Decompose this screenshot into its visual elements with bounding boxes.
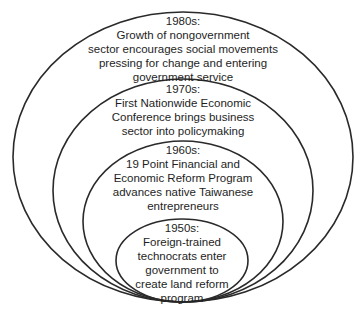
decade-1970s: 1970s: [0, 82, 360, 96]
text-line: 19 Point Financial and [0, 157, 360, 171]
text-line: Conference brings business [0, 110, 360, 124]
text-line: Foreign-trained [0, 235, 360, 249]
text-line: government to [0, 263, 360, 277]
label-1980s: 1980s: Growth of nongovernment sector en… [0, 14, 360, 84]
text-line: sector encourages social movements [0, 42, 360, 56]
label-1970s: 1970s: First Nationwide Economic Confere… [0, 82, 360, 138]
decade-1980s: 1980s: [0, 14, 360, 28]
text-line: technocrats enter [0, 249, 360, 263]
text-line: sector into policymaking [0, 124, 360, 138]
text-line: Growth of nongovernment [0, 28, 360, 42]
text-line: First Nationwide Economic [0, 96, 360, 110]
text-line: entrepreneurs [0, 199, 360, 213]
text-line: advances native Taiwanese [0, 185, 360, 199]
text-line: program [0, 291, 360, 305]
text-line: Economic Reform Program [0, 171, 360, 185]
decade-1950s: 1950s: [0, 221, 360, 235]
text-line: pressing for change and entering [0, 56, 360, 70]
text-line: create land reform [0, 277, 360, 291]
label-1950s: 1950s: Foreign-trained technocrats enter… [0, 221, 360, 305]
decade-1960s: 1960s: [0, 143, 360, 157]
label-1960s: 1960s: 19 Point Financial and Economic R… [0, 143, 360, 213]
